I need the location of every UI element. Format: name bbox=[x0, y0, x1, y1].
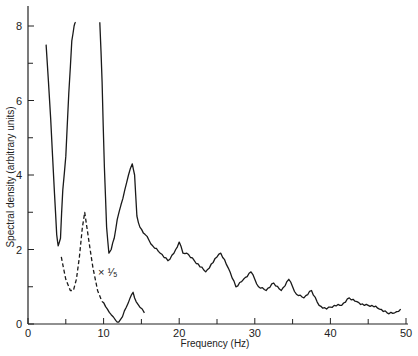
y-tick-label: 2 bbox=[16, 244, 22, 256]
x-tick-label: 30 bbox=[249, 327, 261, 339]
y-tick-label: 0 bbox=[16, 318, 22, 330]
x-axis-label: Frequency (Hz) bbox=[181, 338, 250, 349]
y-tick-label: 4 bbox=[16, 169, 22, 181]
x-tick-label: 0 bbox=[25, 327, 31, 339]
solid-spectrum-path bbox=[46, 22, 76, 246]
x-tick-label: 40 bbox=[324, 327, 336, 339]
solid-spectrum-path bbox=[100, 22, 401, 314]
y-axis-label: Spectral density (arbitrary units) bbox=[5, 106, 16, 247]
y-tick-label: 6 bbox=[16, 95, 22, 107]
dashed-spectrum-path bbox=[61, 212, 102, 301]
solid-spectrum-path bbox=[102, 292, 144, 322]
axes: 0102030405002468 bbox=[16, 6, 412, 339]
y-tick-label: 8 bbox=[16, 20, 22, 32]
x-tick-label: 10 bbox=[97, 327, 109, 339]
scale-annotation: × ¹⁄₅ bbox=[98, 266, 117, 278]
x-tick-label: 50 bbox=[400, 327, 412, 339]
spectral-density-chart: 0102030405002468 × ¹⁄₅ Frequency (Hz) Sp… bbox=[0, 0, 418, 356]
